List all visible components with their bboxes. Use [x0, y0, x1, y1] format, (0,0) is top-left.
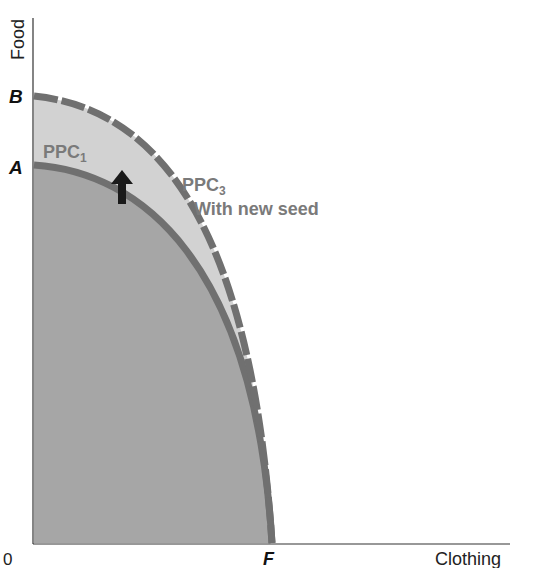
origin-label: 0: [3, 550, 12, 568]
ppc3-label-sub: 3: [219, 184, 226, 198]
ppc3-label: PPC3: [182, 175, 226, 198]
ppc3-note: With new seed: [194, 199, 319, 219]
point-f-label: F: [263, 549, 275, 568]
point-b-label: B: [9, 86, 23, 107]
x-axis-label: Clothing: [435, 549, 501, 568]
y-axis-label: Food: [8, 19, 28, 60]
point-a-label: A: [8, 157, 23, 178]
ppc1-label-sub: 1: [80, 151, 87, 165]
ppc-chart: Food B A 0 F Clothing PPC1 PPC3 With new…: [0, 0, 546, 568]
ppc1-label-main: PPC: [43, 142, 80, 162]
ppc3-label-main: PPC: [182, 175, 219, 195]
